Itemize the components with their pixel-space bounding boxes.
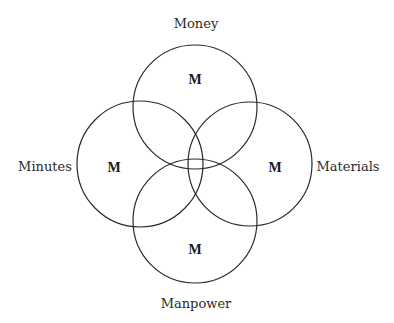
letter-minutes: M xyxy=(107,160,120,176)
label-minutes: Minutes xyxy=(18,159,72,174)
label-materials: Materials xyxy=(317,159,380,174)
label-money: Money xyxy=(174,16,219,31)
letter-money: M xyxy=(188,72,201,88)
circle-materials xyxy=(188,102,312,226)
circle-manpower xyxy=(133,159,257,283)
circle-money xyxy=(133,45,257,169)
letter-materials: M xyxy=(268,160,281,176)
label-manpower: Manpower xyxy=(161,296,232,311)
circle-minutes xyxy=(77,101,203,227)
letter-manpower: M xyxy=(188,242,201,258)
